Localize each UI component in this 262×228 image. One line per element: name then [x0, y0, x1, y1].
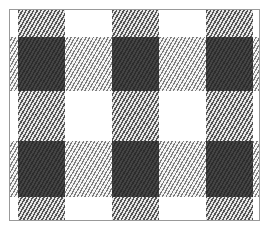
- dark-square: [206, 37, 253, 91]
- plaid-pattern-image: [9, 9, 260, 221]
- dark-square: [18, 141, 65, 197]
- dark-square: [112, 141, 159, 197]
- dark-square: [18, 37, 65, 91]
- dark-square: [112, 37, 159, 91]
- dark-square: [206, 141, 253, 197]
